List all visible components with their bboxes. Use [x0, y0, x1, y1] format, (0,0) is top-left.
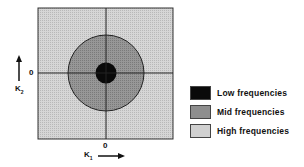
- legend-swatch-high: [190, 124, 211, 138]
- legend-label-high: High frequencies: [217, 126, 289, 136]
- legend-swatch-low: [190, 86, 211, 100]
- x-origin-label: 0: [103, 141, 107, 150]
- legend-label-low: Low frequencies: [217, 88, 287, 98]
- k2-axis-label: K2: [15, 84, 24, 95]
- frequency-plane-diagram: [0, 0, 304, 167]
- k1-arrow-head: [118, 153, 125, 159]
- legend-swatch-mid: [190, 105, 211, 119]
- y-origin-label: 0: [29, 68, 33, 77]
- legend-label-mid: Mid frequencies: [217, 107, 285, 117]
- k2-arrow-head: [16, 55, 22, 62]
- k1-axis-label: K1: [84, 150, 93, 161]
